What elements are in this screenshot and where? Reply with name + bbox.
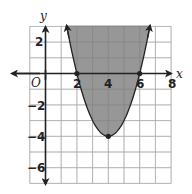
origin-label: O — [31, 76, 41, 90]
y-axis-label: y — [39, 9, 47, 23]
x-axis-label: x — [176, 67, 183, 81]
marked-point — [137, 71, 142, 76]
marked-point — [106, 134, 111, 139]
y-tick-2: 2 — [35, 35, 43, 49]
x-tick-4: 4 — [104, 77, 112, 91]
x-tick-8: 8 — [168, 77, 176, 91]
y-tick-neg6: −6 — [27, 161, 45, 175]
marked-point — [74, 71, 79, 76]
coordinate-plane: y x O 2 4 6 8 2 −2 −4 −6 — [0, 0, 192, 194]
x-tick-2: 2 — [73, 77, 81, 91]
y-tick-neg2: −2 — [27, 99, 45, 113]
x-tick-6: 6 — [136, 77, 144, 91]
y-tick-neg4: −4 — [27, 130, 45, 144]
